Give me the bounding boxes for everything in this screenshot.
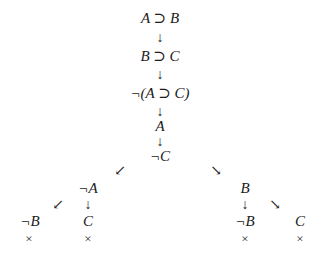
arrow-down-left-icon: ↙ [52, 198, 64, 212]
arrow-down-right-icon: ↘ [269, 198, 281, 212]
arrow-down-right-icon: ↘ [210, 164, 222, 178]
arrow-down-icon: ↓ [157, 31, 164, 45]
closed-branch-icon: × [25, 232, 32, 245]
node-not-a: ¬A [78, 181, 97, 196]
leaf-not-b-right: ¬B [235, 214, 254, 229]
node-a-implies-b: A ⊃ B [141, 11, 179, 26]
leaf-c-left: C [83, 214, 93, 229]
closed-branch-icon: × [241, 232, 248, 245]
node-b: B [240, 181, 249, 196]
leaf-not-b-left: ¬B [20, 214, 39, 229]
node-not-a-implies-c: ¬(A ⊃ C) [130, 86, 189, 101]
arrow-down-icon: ↓ [157, 68, 164, 82]
closed-branch-icon: × [84, 232, 91, 245]
arrow-down-icon: ↓ [85, 198, 92, 212]
node-b-implies-c: B ⊃ C [140, 49, 179, 64]
arrow-down-icon: ↓ [242, 198, 249, 212]
arrow-down-left-icon: ↙ [114, 164, 126, 178]
node-not-c: ¬C [150, 149, 170, 164]
closed-branch-icon: × [296, 232, 303, 245]
node-a: A [155, 119, 164, 134]
leaf-c-right: C [295, 214, 305, 229]
